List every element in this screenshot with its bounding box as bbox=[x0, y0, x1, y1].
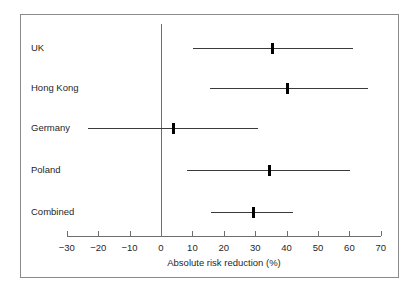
row-label: Hong Kong bbox=[31, 80, 79, 96]
x-axis-tick-label: −10 bbox=[113, 242, 147, 253]
row-label: Germany bbox=[31, 120, 70, 136]
x-axis-tick bbox=[67, 231, 68, 236]
x-axis-tick-label: 70 bbox=[364, 242, 398, 253]
forest-row: Combined bbox=[0, 204, 412, 220]
x-axis-tick bbox=[98, 231, 99, 236]
x-axis-tick bbox=[381, 231, 382, 236]
x-axis-tick bbox=[192, 231, 193, 236]
x-axis-tick-label: −30 bbox=[50, 242, 84, 253]
x-axis-tick bbox=[130, 231, 131, 236]
forest-row: Poland bbox=[0, 162, 412, 178]
x-axis-tick-label: 60 bbox=[332, 242, 366, 253]
forest-plot-figure: UKHong KongGermanyPolandCombined −30−20−… bbox=[0, 0, 412, 289]
x-axis-tick bbox=[255, 231, 256, 236]
x-axis-line bbox=[67, 236, 381, 237]
point-estimate-marker bbox=[268, 165, 271, 176]
x-axis-tick bbox=[161, 231, 162, 236]
forest-row: Germany bbox=[0, 120, 412, 136]
x-axis-tick-label: 20 bbox=[207, 242, 241, 253]
x-axis-tick-label: 50 bbox=[301, 242, 335, 253]
x-axis-tick bbox=[224, 231, 225, 236]
point-estimate-marker bbox=[252, 207, 255, 218]
x-axis-tick bbox=[287, 231, 288, 236]
x-axis-tick bbox=[318, 231, 319, 236]
x-axis-tick-label: 30 bbox=[238, 242, 272, 253]
row-label: UK bbox=[31, 40, 44, 56]
forest-row: UK bbox=[0, 40, 412, 56]
x-axis-tick-label: 40 bbox=[270, 242, 304, 253]
point-estimate-marker bbox=[172, 123, 175, 134]
forest-row: Hong Kong bbox=[0, 80, 412, 96]
x-axis-tick bbox=[349, 231, 350, 236]
plot-area: UKHong KongGermanyPolandCombined −30−20−… bbox=[0, 0, 412, 289]
x-axis-tick-label: −20 bbox=[81, 242, 115, 253]
x-axis-tick-label: 0 bbox=[144, 242, 178, 253]
x-axis-tick-label: 10 bbox=[175, 242, 209, 253]
point-estimate-marker bbox=[271, 43, 274, 54]
row-label: Combined bbox=[31, 204, 74, 220]
x-axis-title: Absolute risk reduction (%) bbox=[94, 257, 354, 268]
point-estimate-marker bbox=[286, 83, 289, 94]
row-label: Poland bbox=[31, 162, 61, 178]
